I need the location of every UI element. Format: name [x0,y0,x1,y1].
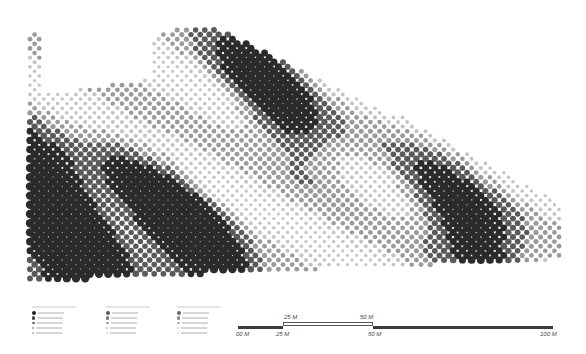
legend-label [37,322,63,324]
legend-label [181,327,207,329]
legend-swatch-icon [106,327,108,329]
legend-label [37,317,63,319]
legend-swatch-icon [177,311,181,315]
scale-label-25: 25 M [276,331,289,337]
legend-row [177,331,221,335]
legend-swatch-icon [177,332,179,334]
legend-row [32,311,76,315]
legend-swatch-icon [177,327,179,329]
legend-label [111,322,137,324]
legend-group-2 [106,306,150,336]
scale-label-50: 50 M [368,331,381,337]
legend-label [182,322,208,324]
legend-swatch-icon [106,316,109,319]
legend-row [32,326,76,330]
legend-row [106,316,150,320]
legend-row [177,326,221,330]
scale-label-100: 100 M [540,331,557,337]
legend-row [32,321,76,325]
legend-row [106,326,150,330]
legend-title [106,306,150,308]
legend-title [32,306,76,308]
legend-swatch-icon [32,332,34,334]
legend-label [110,327,136,329]
legend-row [106,311,150,315]
legend-label [38,312,64,314]
legend-row [106,331,150,335]
halftone-dot-map [0,0,586,300]
legend-row [177,321,221,325]
legend-swatch-icon [177,322,180,325]
legend-label [183,312,209,314]
scale-segment-50-100 [373,326,553,329]
scale-label-0: 00 M [236,331,249,337]
legend-row [32,316,76,320]
legend-swatch-icon [32,316,35,319]
scale-top-label-50: 50 M [360,314,373,320]
legend-label [112,312,138,314]
legend-title [177,306,221,308]
legend-swatch-icon [32,327,34,329]
legend-row [32,331,76,335]
legend-group-1 [32,306,76,336]
legend-swatch-icon [106,322,109,325]
legend-label [36,327,62,329]
legend-label [36,332,62,334]
legend-group-3 [177,306,221,336]
legend-label [182,317,208,319]
scale-segment-25-50 [283,322,373,326]
legend-row [177,316,221,320]
legend-swatch-icon [177,316,180,319]
legend-row [106,321,150,325]
legend-label [181,332,207,334]
legend-label [110,332,136,334]
legend-swatch-icon [106,311,110,315]
legend-label [111,317,137,319]
scale-bar: 00 M 25 M 50 M 100 M 25 M 50 M [238,318,558,348]
legend-row [177,311,221,315]
scale-top-label-25: 25 M [284,314,297,320]
legend-swatch-icon [106,332,108,334]
legend-swatch-icon [32,322,35,325]
scale-segment-0-25 [238,326,283,329]
legend-swatch-icon [32,311,36,315]
